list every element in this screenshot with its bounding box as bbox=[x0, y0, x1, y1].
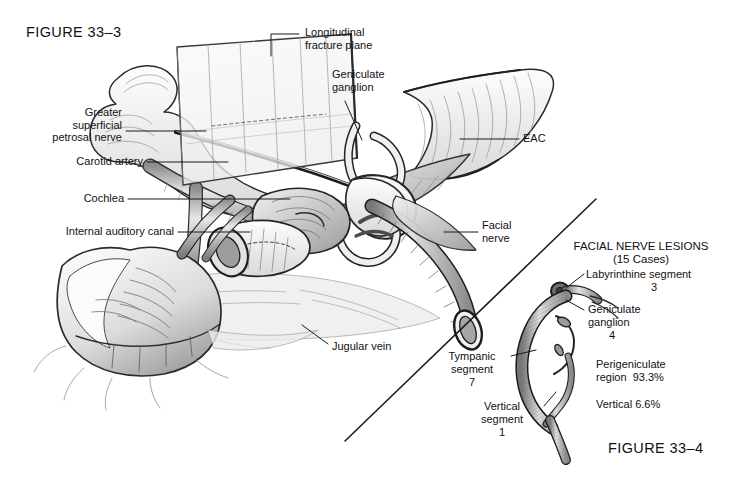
inset-count-tympanic-segment: 7 bbox=[432, 376, 512, 389]
label-jugular-vein: Jugular vein bbox=[332, 340, 391, 353]
inset-label-vertical-segment: Vertical segment bbox=[462, 400, 542, 425]
inset-label-geniculate-ganglion: Geniculate ganglion bbox=[588, 303, 641, 328]
figure-title-right: FIGURE 33–4 bbox=[608, 440, 703, 456]
inset-label-tympanic-segment: Tympanic segment bbox=[432, 350, 512, 375]
inset-count-labyrinthine-segment: 3 bbox=[586, 281, 722, 294]
inset-heading: FACIAL NERVE LESIONS bbox=[556, 240, 726, 253]
label-geniculate-ganglion: Geniculate ganglion bbox=[332, 68, 385, 93]
label-eac: EAC bbox=[523, 132, 546, 145]
label-longitudinal-fracture-plane: Longitudinal fracture plane bbox=[305, 26, 372, 51]
inset-stat-vertical: Vertical 6.6% bbox=[596, 398, 660, 411]
label-facial-nerve: Facial nerve bbox=[482, 219, 511, 244]
label-greater-superficial-petrosal-nerve: Greater superficial petrosal nerve bbox=[8, 106, 122, 144]
inset-count-vertical-segment: 1 bbox=[462, 426, 542, 439]
label-internal-auditory-canal: Internal auditory canal bbox=[8, 225, 174, 238]
inset-label-labyrinthine-segment: Labyrinthine segment bbox=[586, 268, 691, 281]
label-carotid-artery: Carotid artery bbox=[8, 155, 143, 168]
inset-count-geniculate-ganglion: 4 bbox=[609, 329, 615, 342]
label-cochlea: Cochlea bbox=[8, 192, 124, 205]
inset-subheading: (15 Cases) bbox=[556, 253, 726, 266]
figure-canvas: FIGURE 33–3 FIGURE 33–4 Longitudinal fra… bbox=[0, 0, 729, 483]
inset-stat-perigeniculate-region: Perigeniculate region 93.3% bbox=[596, 358, 666, 383]
figure-title-left: FIGURE 33–3 bbox=[26, 24, 121, 40]
